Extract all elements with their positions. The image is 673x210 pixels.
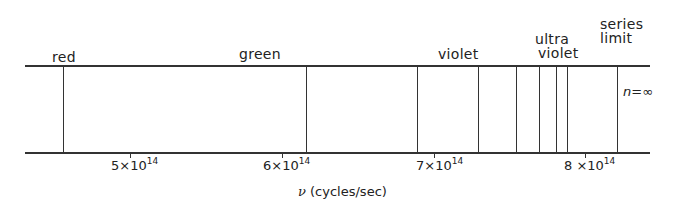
spectral-line-uv-3 <box>556 65 557 153</box>
label-violet: violet <box>438 47 479 61</box>
axis-unit: (cycles/sec) <box>310 184 387 199</box>
label-ultraviolet-line2: violet <box>538 46 579 60</box>
tick-label-5e14: 5×1014 <box>111 157 158 173</box>
nu-symbol: ν <box>298 184 306 199</box>
tick-label-8e14: 8 ×1014 <box>564 157 615 173</box>
spectral-line-uv-4 <box>567 65 568 153</box>
label-series-limit-line2: limit <box>600 31 632 45</box>
spectral-line-green <box>306 65 307 153</box>
series-limit-line <box>617 65 618 153</box>
tick-label-7e14: 7×1014 <box>416 157 463 173</box>
tick-label-6e14: 6×1014 <box>263 157 310 173</box>
axis-title: ν (cycles/sec) <box>298 184 387 199</box>
label-series-limit-line1: series <box>600 17 643 31</box>
spectral-line-uv-1 <box>516 65 517 153</box>
spectral-line-violet-1 <box>417 65 418 153</box>
label-red: red <box>52 50 76 64</box>
spectral-line-uv-2 <box>539 65 540 153</box>
spectral-line-red <box>63 65 64 153</box>
label-ultraviolet-line1: ultra <box>535 32 569 46</box>
n-infinity-label: n=∞ <box>623 84 653 99</box>
label-green: green <box>239 47 281 61</box>
spectral-line-violet-2 <box>478 65 479 153</box>
